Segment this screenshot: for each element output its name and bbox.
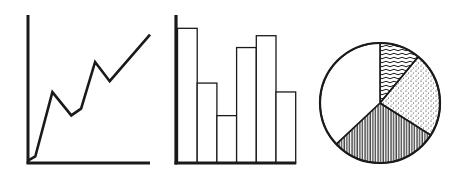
chart-icons-figure bbox=[0, 0, 468, 179]
pie-chart bbox=[0, 0, 468, 179]
